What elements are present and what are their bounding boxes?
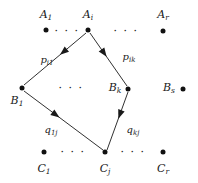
node-dot-A1[interactable] [44,28,49,33]
node-label-subscript: 1 [46,167,51,176]
node-label-C1: C1 [37,163,50,174]
edge-b1-cj [24,91,103,150]
edge-b1-cj-label: q1j [44,125,57,135]
node-label-A1: A1 [40,9,53,20]
node-dot-Bs[interactable] [181,87,186,92]
node-label-base: A [40,8,48,21]
edge-ai-bk-label: pik [123,52,136,62]
node-label-subscript: r [165,167,169,176]
ellipsis-row-c-0: · · · [61,147,86,158]
edge-label-subscript: ik [129,56,135,64]
node-label-B1: B1 [11,95,24,106]
node-label-Cj: Cj [100,163,111,174]
edge-bk-cj [107,92,128,150]
node-label-base: A [83,8,91,21]
node-label-Bs: Bs [163,82,175,93]
edge-ai-bk-arrowhead [99,48,107,57]
edge-ai-bk [90,33,127,86]
node-dot-Ar[interactable] [161,29,166,34]
node-label-subscript: k [117,86,122,95]
node-label-base: B [11,94,19,107]
node-dot-B1[interactable] [20,86,25,91]
node-label-base: A [157,8,165,21]
ellipsis-row-a-0: · · · [55,26,80,37]
node-label-subscript: r [165,13,169,22]
edge-b1-cj-arrowhead [50,109,59,117]
node-label-subscript: j [108,167,110,176]
node-label-base: B [109,81,117,94]
node-dot-Bk[interactable] [126,87,131,92]
node-dot-C1[interactable] [42,150,47,155]
node-dot-Cj[interactable] [103,150,108,155]
node-label-Ai: Ai [83,9,93,20]
node-label-Bk: Bk [109,82,122,93]
ellipsis-row-a-1: · · · [114,26,139,37]
node-label-Ar: Ar [157,9,169,20]
ellipsis-row-b-0: · · · [59,83,84,94]
edge-bk-cj-label: qkj [127,125,140,135]
edge-label-subscript: i1 [47,59,54,67]
edge-bk-cj-arrowhead [118,109,124,119]
node-label-subscript: s [171,86,175,95]
edge-ai-b1-label: pi1 [40,55,53,65]
node-label-subscript: 1 [19,99,24,108]
edge-label-subscript: kj [133,129,139,137]
node-label-Cr: Cr [157,163,169,174]
node-label-subscript: 1 [48,13,53,22]
node-label-base: B [163,81,171,94]
edge-label-subscript: 1j [51,129,58,137]
node-dot-Ai[interactable] [86,28,91,33]
diagram-canvas: pi1pikq1jqkjA1AiAr· · ·· · ·B1BkBs· · ·C… [0,0,198,183]
node-label-subscript: i [91,13,93,22]
node-dot-Cr[interactable] [161,150,166,155]
edge-ai-b1 [24,33,86,85]
edge-ai-b1-arrowhead [60,46,69,54]
ellipsis-row-c-1: · · · [121,147,146,158]
